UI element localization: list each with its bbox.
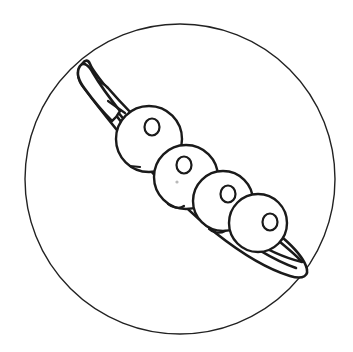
pea-4 — [229, 194, 287, 252]
pea-4-highlight-ring — [263, 214, 278, 231]
pea-3-highlight-ring — [221, 186, 236, 203]
pea-2-seam-dot — [175, 180, 178, 183]
pea-pod-line-art — [0, 0, 353, 352]
pea-1-seam-dash — [130, 166, 140, 167]
pea-1-highlight-ring — [145, 119, 160, 136]
illustration-canvas: Pea Pod — [0, 0, 353, 352]
pea-2-highlight-ring — [177, 157, 192, 174]
